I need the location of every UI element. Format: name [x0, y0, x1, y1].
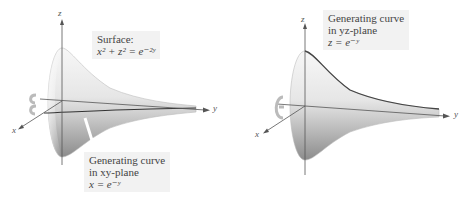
generating-curve-label: Generating curve in xy-plane x = e⁻ʸ: [84, 152, 170, 192]
rotation-arrow-icon: [276, 97, 284, 118]
x-axis-label: x: [255, 129, 259, 139]
figure-left-surface-xy-curve: z y x Surface: x² + z² = e⁻²ʸ Generating…: [0, 0, 235, 207]
surface-equation: x² + z² = e⁻²ʸ: [97, 45, 155, 57]
x-axis-label: x: [12, 125, 16, 135]
y-axis-label: y: [454, 109, 458, 119]
z-axis-label: z: [58, 8, 62, 18]
surface-body: [290, 51, 439, 160]
surface-label-title: Surface:: [97, 33, 155, 45]
curve-equation: x = e⁻ʸ: [89, 178, 165, 190]
y-axis-label: y: [213, 103, 217, 113]
curve-label-plane: in yz-plane: [328, 24, 404, 36]
z-axis-label: z: [301, 14, 305, 24]
surface-body: [48, 48, 196, 157]
figure-right-surface-yz-curve: z y x Generating curve in yz-plane z = e…: [235, 0, 470, 207]
generating-curve-label: Generating curve in yz-plane z = e⁻ʸ: [323, 10, 409, 50]
curve-label-line1: Generating curve: [328, 12, 404, 24]
curve-label-plane: in xy-plane: [89, 166, 165, 178]
surface-label: Surface: x² + z² = e⁻²ʸ: [92, 31, 160, 59]
curve-label-line1: Generating curve: [89, 154, 165, 166]
curve-equation: z = e⁻ʸ: [328, 36, 404, 48]
rotation-arrow-icon: [31, 95, 36, 114]
